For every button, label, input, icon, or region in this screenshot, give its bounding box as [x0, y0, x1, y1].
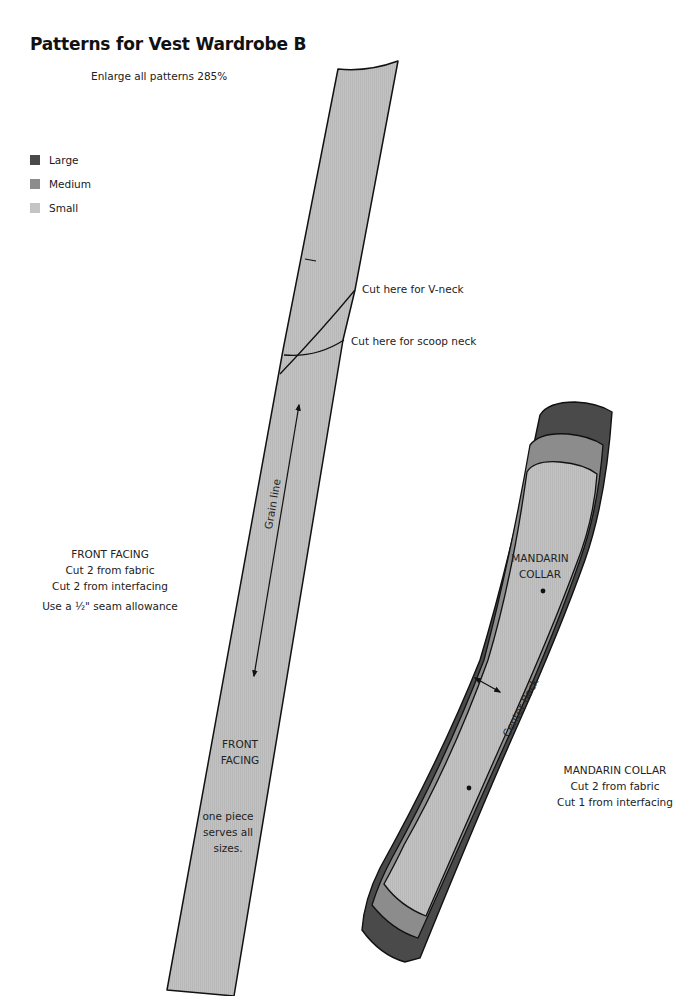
seam-fraction: ½: [75, 600, 85, 612]
front-facing-name: FRONT FACING: [20, 546, 200, 562]
one-piece-note-line1: one piece: [198, 808, 258, 824]
front-facing-label-line1: FRONT: [210, 736, 270, 752]
seam-allowance-note: Use a ½" seam allowance: [20, 598, 200, 614]
front-facing-label-line2: FACING: [210, 752, 270, 768]
collar-label-line2: COLLAR: [505, 566, 575, 582]
collar-label-line1: MANDARIN: [505, 550, 575, 566]
collar-cut-fabric: Cut 2 from fabric: [545, 778, 685, 794]
front-facing-cut-fabric: Cut 2 from fabric: [20, 562, 200, 578]
collar-small-outline: [384, 462, 597, 916]
collar-name: MANDARIN COLLAR: [545, 762, 685, 778]
scoop-neck-label: Cut here for scoop neck: [351, 335, 476, 347]
collar-cut-interfacing: Cut 1 from interfacing: [545, 794, 685, 810]
mandarin-collar-piece-label: MANDARIN COLLAR: [505, 550, 575, 582]
one-piece-note-line3: sizes.: [198, 840, 258, 856]
v-neck-label: Cut here for V-neck: [362, 283, 464, 295]
collar-marker-dot-top: [541, 589, 546, 594]
front-facing-instructions: FRONT FACING Cut 2 from fabric Cut 2 fro…: [20, 546, 200, 614]
front-facing-piece-label: FRONT FACING: [210, 736, 270, 768]
collar-marker-dot-bottom: [467, 786, 472, 791]
mandarin-collar-instructions: MANDARIN COLLAR Cut 2 from fabric Cut 1 …: [545, 762, 685, 810]
front-facing-cut-interfacing: Cut 2 from interfacing: [20, 578, 200, 594]
one-piece-note-line2: serves all: [198, 824, 258, 840]
pattern-artwork: [0, 0, 700, 996]
one-piece-note: one piece serves all sizes.: [198, 808, 258, 856]
mandarin-collar-piece: [362, 402, 612, 962]
